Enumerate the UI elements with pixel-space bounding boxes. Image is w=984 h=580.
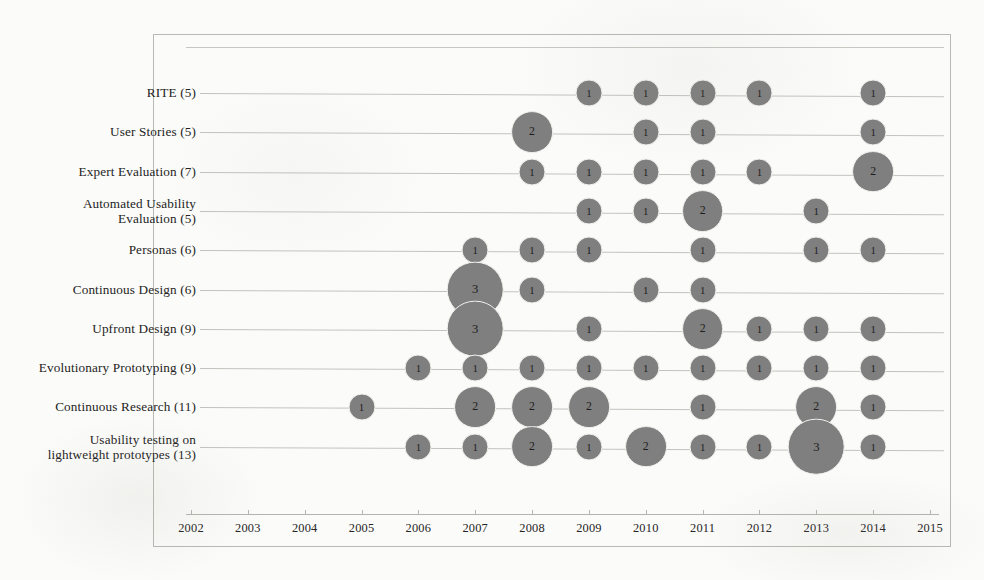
bubble[interactable]: 1 [575,355,602,382]
x-axis-tick-label: 2002 [178,521,204,536]
bubble-value: 1 [700,127,705,138]
bubble[interactable]: 1 [746,433,773,460]
x-axis-tick [475,510,476,514]
bubble[interactable]: 1 [803,237,830,264]
bubble[interactable]: 1 [632,158,659,185]
bubble[interactable]: 1 [405,433,432,460]
bubble-value: 1 [472,245,477,256]
bubble-value: 1 [643,284,648,295]
bubble[interactable]: 1 [575,158,602,185]
x-axis-tick-label: 2007 [462,521,488,536]
x-axis-tick-label: 2012 [747,521,773,536]
bubble[interactable]: 3 [788,418,845,475]
bubble[interactable]: 1 [860,80,887,107]
bubble[interactable]: 1 [689,355,716,382]
bubble[interactable]: 1 [860,433,887,460]
bubble-value: 1 [870,402,875,413]
bubble[interactable]: 2 [511,426,553,468]
bubble[interactable]: 1 [746,80,773,107]
x-axis-tick [930,510,931,514]
bubble[interactable]: 1 [689,276,716,303]
bubble[interactable]: 1 [689,237,716,264]
x-axis-tick-label: 2011 [690,521,715,536]
bubble-value: 1 [586,363,591,374]
bubble-value: 2 [870,166,876,178]
bubble[interactable]: 1 [689,119,716,146]
bubble[interactable]: 1 [462,355,489,382]
bubble[interactable]: 1 [519,276,546,303]
bubble[interactable]: 1 [860,119,887,146]
category-label: User Stories (5) [110,125,196,141]
bubble-value: 1 [700,284,705,295]
x-axis-tick [191,510,192,514]
bubble[interactable]: 1 [689,80,716,107]
x-axis-tick [759,510,760,514]
bubble-value: 1 [643,166,648,177]
bubble[interactable]: 1 [575,80,602,107]
x-axis-line [186,514,939,515]
bubble-value: 1 [586,88,591,99]
bubble[interactable]: 1 [803,315,830,342]
bubble[interactable]: 2 [682,308,724,350]
bubble-value: 1 [700,166,705,177]
bubble-value: 2 [700,323,706,335]
x-axis-tick [532,510,533,514]
x-axis-tick-label: 2014 [860,521,886,536]
bubble[interactable]: 1 [860,315,887,342]
bubble[interactable]: 1 [632,80,659,107]
bubble[interactable]: 2 [568,386,610,428]
bubble[interactable]: 1 [803,355,830,382]
bubble[interactable]: 1 [632,276,659,303]
bubble-value: 1 [472,363,477,374]
bubble[interactable]: 2 [852,151,894,193]
x-axis-tick-label: 2003 [235,521,261,536]
bubble[interactable]: 2 [682,190,724,232]
bubble-value: 1 [700,88,705,99]
x-axis-tick [248,510,249,514]
bubble[interactable]: 1 [575,197,602,224]
bubble[interactable]: 1 [860,394,887,421]
bubble-value: 1 [529,363,534,374]
bubble[interactable]: 2 [511,386,553,428]
bubble[interactable]: 1 [632,119,659,146]
bubble[interactable]: 2 [454,386,496,428]
bubble-value: 1 [870,363,875,374]
bubble-value: 1 [700,245,705,256]
bubble-value: 1 [586,205,591,216]
bubble[interactable]: 1 [689,433,716,460]
bubble-value: 1 [586,245,591,256]
bubble-value: 1 [870,88,875,99]
bubble[interactable]: 1 [575,315,602,342]
bubble[interactable]: 2 [625,426,667,468]
bubble[interactable]: 1 [348,394,375,421]
category-label: Expert Evaluation (7) [79,164,196,180]
bubble[interactable]: 1 [689,394,716,421]
bubble[interactable]: 1 [746,158,773,185]
bubble[interactable]: 1 [860,355,887,382]
bubble-value: 1 [643,205,648,216]
bubble[interactable]: 1 [689,158,716,185]
category-label: Automated Usability Evaluation (5) [83,195,196,226]
bubble[interactable]: 3 [447,301,504,358]
bubble[interactable]: 1 [405,355,432,382]
bubble[interactable]: 2 [511,111,553,153]
bubble[interactable]: 1 [860,237,887,264]
bubble-value: 1 [586,166,591,177]
x-axis-tick-label: 2010 [633,521,659,536]
bubble[interactable]: 1 [462,237,489,264]
bubble[interactable]: 1 [462,433,489,460]
bubble-value: 1 [757,323,762,334]
bubble-value: 2 [529,441,535,453]
bubble[interactable]: 1 [519,158,546,185]
bubble-value: 1 [416,363,421,374]
bubble[interactable]: 1 [519,237,546,264]
x-axis-tick-label: 2005 [349,521,375,536]
bubble[interactable]: 1 [519,355,546,382]
bubble[interactable]: 1 [575,237,602,264]
bubble[interactable]: 1 [803,197,830,224]
bubble[interactable]: 1 [632,197,659,224]
bubble[interactable]: 1 [575,433,602,460]
bubble[interactable]: 1 [746,315,773,342]
bubble[interactable]: 1 [632,355,659,382]
bubble[interactable]: 1 [746,355,773,382]
